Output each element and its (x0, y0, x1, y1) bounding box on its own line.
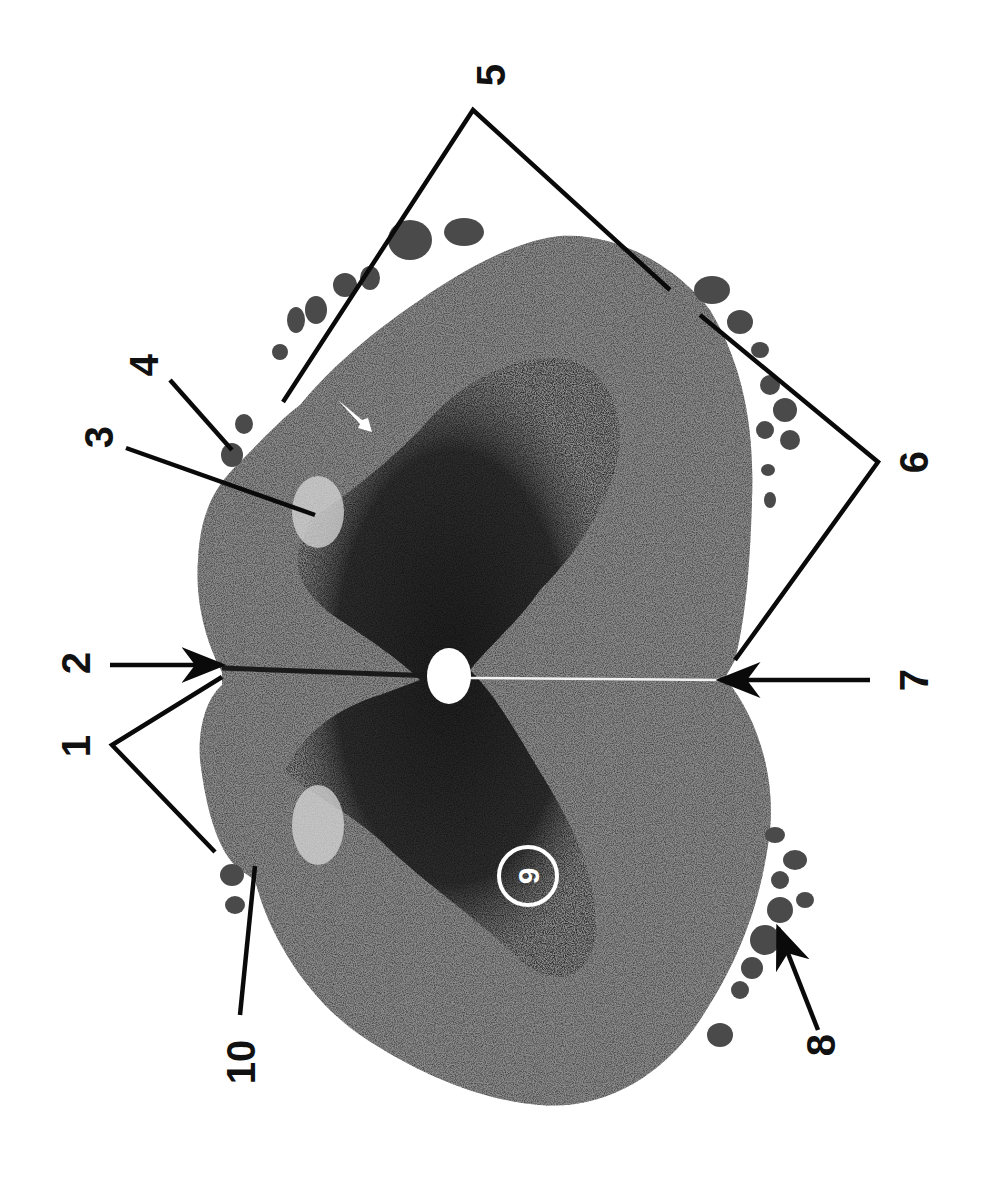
leader-4 (170, 380, 232, 450)
central-canal (427, 648, 471, 704)
label-4: 4 (122, 353, 166, 376)
label-9: 9 (512, 868, 545, 885)
label-5: 5 (469, 64, 513, 86)
spinal-cord-section (197, 236, 770, 1106)
label-8: 8 (799, 1034, 843, 1056)
spinal-cord-diagram: 5 4 3 2 1 10 8 7 6 9 (0, 0, 990, 1178)
substantia-gelatinosa-right (292, 476, 344, 548)
label-6: 6 (892, 451, 936, 473)
label-3: 3 (77, 426, 121, 448)
label-1: 1 (54, 735, 98, 757)
leader-8-arrow (778, 928, 818, 1030)
label-7: 7 (892, 669, 936, 691)
label-2: 2 (54, 652, 98, 674)
label-10: 10 (219, 1040, 263, 1085)
leader-10 (240, 866, 255, 1015)
substantia-gelatinosa-left (292, 785, 344, 865)
